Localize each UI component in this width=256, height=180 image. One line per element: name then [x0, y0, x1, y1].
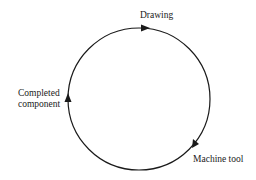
arrow-completed-component-icon — [65, 93, 72, 102]
node-completed-line2: component — [18, 99, 60, 110]
node-completed-component-label: Completed component — [18, 88, 60, 110]
node-completed-line1: Completed — [18, 88, 60, 99]
node-machine-tool-label: Machine tool — [193, 154, 243, 165]
cycle-circle — [68, 28, 210, 170]
arrow-drawing-icon — [141, 25, 150, 32]
arrow-machine-tool-icon — [192, 139, 199, 148]
node-drawing-label: Drawing — [140, 10, 173, 21]
